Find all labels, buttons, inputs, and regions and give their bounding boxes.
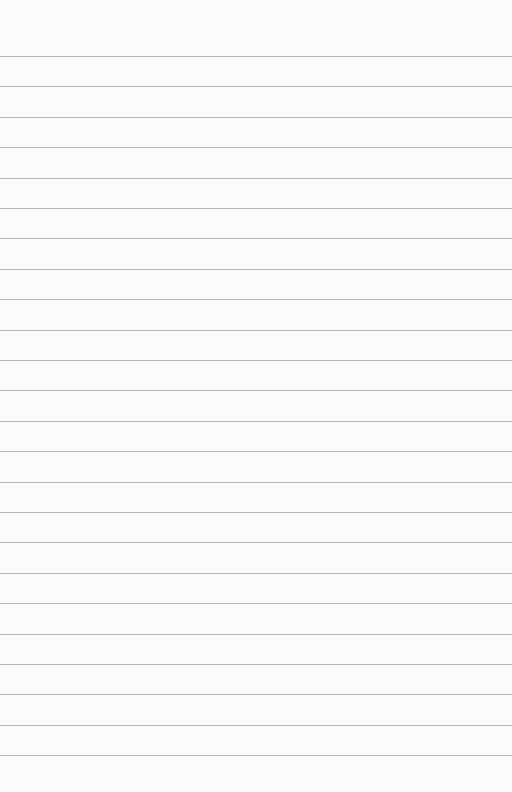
ruled-line: [0, 664, 512, 665]
ruled-line: [0, 694, 512, 695]
ruled-line: [0, 208, 512, 209]
ruled-line: [0, 178, 512, 179]
ruled-line: [0, 117, 512, 118]
ruled-line: [0, 482, 512, 483]
ruled-line: [0, 725, 512, 726]
ruled-line: [0, 360, 512, 361]
ruled-line: [0, 390, 512, 391]
ruled-line: [0, 330, 512, 331]
ruled-line: [0, 421, 512, 422]
lined-paper: [0, 0, 512, 792]
ruled-line: [0, 56, 512, 57]
ruled-line: [0, 573, 512, 574]
ruled-line: [0, 269, 512, 270]
ruled-line: [0, 542, 512, 543]
ruled-line: [0, 299, 512, 300]
ruled-line: [0, 238, 512, 239]
ruled-line: [0, 512, 512, 513]
ruled-line: [0, 86, 512, 87]
ruled-line: [0, 634, 512, 635]
ruled-line: [0, 603, 512, 604]
ruled-line: [0, 755, 512, 756]
ruled-line: [0, 147, 512, 148]
ruled-line: [0, 451, 512, 452]
